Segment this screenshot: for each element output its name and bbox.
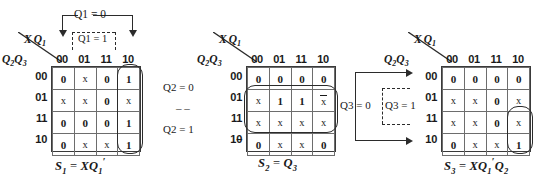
kmap-grid-s1: 0 x 0 1 x x 0 x 0 0 0 1 0 [51, 66, 141, 152]
cell-s2-r2c1: x [269, 112, 291, 134]
cell-s2-r1c1: 1 [269, 90, 291, 112]
cell-s1-r3c1: x [74, 134, 96, 156]
table-row: x x 0 x [443, 90, 530, 112]
q1-equals-1-label: Q1 = 1 [78, 33, 107, 44]
q3-1-branch-top [382, 88, 410, 89]
cell-s1-r1c3: x [118, 90, 140, 112]
col-header-s3-3: 10 [507, 53, 529, 65]
cell-s2-r0c1: 0 [269, 68, 291, 90]
row-header-s1-1: 01 [21, 87, 47, 108]
cell-s1-r1c2: 0 [96, 90, 118, 112]
q1-1-stem-left [72, 32, 73, 50]
table-row: 0 0 0 0 [248, 68, 335, 90]
row-header-s2-3: 10 [216, 129, 242, 150]
cell-s1-r2c1: 0 [74, 112, 96, 134]
q1-1-stem-right [115, 32, 116, 50]
cell-s2-r2c3: x [313, 112, 335, 134]
cell-s2-r0c2: 0 [291, 68, 313, 90]
q3-0-branch-bottom [355, 140, 407, 141]
table-row: x x 0 x [53, 90, 140, 112]
table-row: 0 0 0 1 [53, 112, 140, 134]
q1-equals-0-label: Q1 = 0 [74, 8, 106, 20]
cell-s1-r0c3: 1 [118, 68, 140, 90]
row-header-s1-0: 00 [21, 66, 47, 87]
q1-0-stem-right [132, 15, 133, 31]
col-headers-s3: 00 01 11 10 [441, 53, 529, 65]
col-axis-label-s1: X Q1 [24, 33, 46, 48]
col-header-s3-2: 11 [485, 53, 507, 65]
cell-s3-r1c1: x [464, 90, 486, 112]
cell-s3-r2c2: 0 [486, 112, 508, 134]
cell-s1-r1c1: x [74, 90, 96, 112]
col-axis-label-s3: X Q1 [414, 33, 436, 48]
table-row: x x x x [248, 112, 335, 134]
col-header-s2-1: 01 [268, 53, 290, 65]
q1-0-arrowhead-right [129, 30, 137, 37]
row-headers-s3: 00 01 11 10 [412, 66, 437, 150]
q2-equals-1-label: Q2 = 1 [163, 123, 194, 135]
q3-equals-0-label: Q3 = 0 [340, 99, 371, 111]
cell-s1-r3c3: 1 [118, 134, 140, 156]
row-header-s1-3: 10 [21, 129, 47, 150]
cell-s2-r3c3: 0 [313, 134, 335, 156]
col-header-s2-3: 10 [312, 53, 334, 65]
row-header-s2-0: 00 [216, 66, 242, 87]
row-header-s3-0: 00 [412, 66, 437, 87]
kmap-grid-s2: 0 0 0 0 x 1 1 x x x x x 0 [246, 66, 336, 152]
cell-s3-r2c1: x [464, 112, 486, 134]
cell-s3-r2c0: x [443, 112, 465, 134]
row-header-s3-2: 11 [412, 108, 437, 129]
cell-s1-r2c2: 0 [96, 112, 118, 134]
table-row: 0 0 0 0 [443, 68, 530, 90]
cell-s1-r0c2: 0 [96, 68, 118, 90]
col-header-s2-0: 00 [246, 53, 268, 65]
cell-s3-r0c3: 0 [508, 68, 530, 90]
cell-s2-r3c1: x [269, 134, 291, 156]
table-row: 0 x x 1 [443, 134, 530, 156]
cell-s2-r2c2: x [291, 112, 313, 134]
row-header-s3-1: 01 [412, 87, 437, 108]
table-row: 0 x 0 1 [53, 68, 140, 90]
cell-s1-r2c3: 1 [118, 112, 140, 134]
cell-s1-r2c0: 0 [53, 112, 75, 134]
row-header-s2-2: 11– [216, 108, 242, 129]
cell-s2-r1c3: x [313, 90, 335, 112]
cell-s3-r3c0: 0 [443, 134, 465, 156]
col-header-s2-2: 11 [290, 53, 312, 65]
cell-s2-r1c0: x [248, 90, 270, 112]
cell-s2-r1c2: 1 [291, 90, 313, 112]
cell-s2-r2c0: x [248, 112, 270, 134]
q3-1-stem [382, 88, 383, 124]
row-axis-label-s3: Q2Q3 [384, 53, 409, 68]
col-header-s3-1: 01 [463, 53, 485, 65]
kmap-grid-s3: 0 0 0 0 x x 0 x x x 0 x 0 [441, 66, 531, 152]
q3-0-branch-top [355, 72, 407, 73]
row-header-s2-1: 01 [216, 87, 242, 108]
cell-s3-r3c2: x [486, 134, 508, 156]
formula-s3: S3 = XQ1′Q2 [444, 156, 508, 176]
cell-s1-r3c2: x [96, 134, 118, 156]
cell-s2-r0c0: 0 [248, 68, 270, 90]
row-headers-s2: 00 01 11– 10 [216, 66, 242, 150]
cell-s3-r1c2: 0 [486, 90, 508, 112]
cell-s3-r3c1: x [464, 134, 486, 156]
col-header-s1-1: 01 [73, 53, 95, 65]
col-header-s1-0: 00 [51, 53, 73, 65]
row-header-s3-3: 10 [412, 129, 437, 150]
cell-overbar: x [321, 95, 326, 107]
q1-0-stem-left [62, 15, 63, 31]
cell-s1-r3c0: 0 [53, 134, 75, 156]
col-headers-s1: 00 01 11 10 [51, 53, 139, 65]
cell-s1-r0c0: 0 [53, 68, 75, 90]
q3-1-branch-bottom [382, 124, 410, 125]
cell-s2-r0c3: 0 [313, 68, 335, 90]
cell-s3-r2c3: x [508, 112, 530, 134]
col-header-s1-2: 11 [95, 53, 117, 65]
cell-s2-r3c0: 0 [248, 134, 270, 156]
row-header-s1-2: 11 [21, 108, 47, 129]
table-row: 0 x x 0 [248, 134, 335, 156]
cell-s3-r1c0: x [443, 90, 465, 112]
table-row: x x 0 x [443, 112, 530, 134]
table-row: 0 x x 1 [53, 134, 140, 156]
